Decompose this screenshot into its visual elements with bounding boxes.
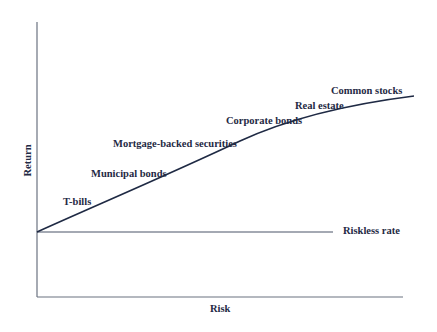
label-common-stocks: Common stocks bbox=[331, 85, 402, 96]
label-real-estate: Real estate bbox=[295, 100, 344, 111]
label-mortgage-backed-securities: Mortgage-backed securities bbox=[113, 138, 237, 149]
label-corporate-bonds: Corporate bonds bbox=[226, 115, 302, 126]
label-t-bills: T-bills bbox=[63, 196, 91, 207]
label-municipal-bonds: Municipal bonds bbox=[91, 168, 167, 179]
x-axis-label: Risk bbox=[210, 303, 230, 314]
label-riskless-rate: Riskless rate bbox=[343, 225, 400, 236]
y-axis-label: Return bbox=[22, 141, 33, 181]
chart-canvas bbox=[0, 0, 437, 332]
